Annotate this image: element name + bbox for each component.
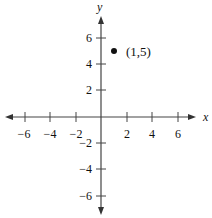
- coordinate-plane: x y −6 −4 −2 2 4 6 6 4 2 −2 −4 −6 (1: [0, 0, 212, 218]
- y-axis-up-arrow-icon: [98, 16, 104, 24]
- x-tick-label: 6: [175, 127, 181, 141]
- y-tick-label: 4: [86, 57, 92, 71]
- x-tick-label: −6: [18, 127, 31, 141]
- y-axis-down-arrow-icon: [98, 207, 104, 215]
- x-axis-right-arrow-icon: [188, 114, 196, 120]
- x-axis-left-arrow-icon: [5, 114, 13, 120]
- y-tick-label: −2: [79, 136, 92, 150]
- data-point: [111, 48, 117, 54]
- y-tick-label: 2: [86, 83, 92, 97]
- x-tick-label: −4: [44, 127, 57, 141]
- y-tick-label: −6: [79, 189, 92, 203]
- x-axis-label: x: [202, 110, 209, 124]
- y-tick-label: −4: [79, 162, 92, 176]
- y-tick-label: 6: [86, 31, 92, 45]
- point-label: (1,5): [126, 44, 151, 59]
- x-tick-label: 2: [124, 127, 130, 141]
- y-axis-label: y: [96, 0, 103, 14]
- x-tick-label: 4: [149, 127, 155, 141]
